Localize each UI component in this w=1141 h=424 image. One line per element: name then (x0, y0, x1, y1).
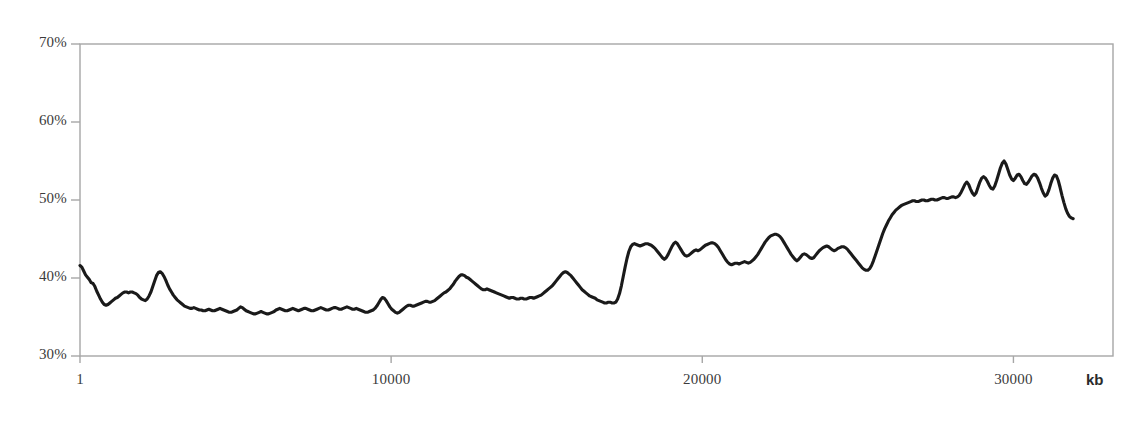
y-axis-tick-label: 30% (19, 346, 67, 363)
y-axis-ticks (71, 44, 80, 356)
x-axis-tick-label: 30000 (953, 371, 1073, 388)
y-axis-tick-label: 40% (19, 268, 67, 285)
y-axis-tick-label: 70% (19, 34, 67, 51)
x-axis-tick-label: 1 (20, 371, 140, 388)
chart-plot-svg (0, 0, 1141, 424)
x-axis-ticks (80, 356, 1013, 363)
gc-content-chart-figure: 70%60%50%40%30% 1100002000030000 kb (0, 0, 1141, 424)
x-axis-tick-label: 10000 (331, 371, 451, 388)
y-axis-tick-label: 60% (19, 112, 67, 129)
x-axis-tick-label: 20000 (642, 371, 762, 388)
x-axis-unit-label: kb (1086, 371, 1104, 388)
y-axis-tick-label: 50% (19, 190, 67, 207)
